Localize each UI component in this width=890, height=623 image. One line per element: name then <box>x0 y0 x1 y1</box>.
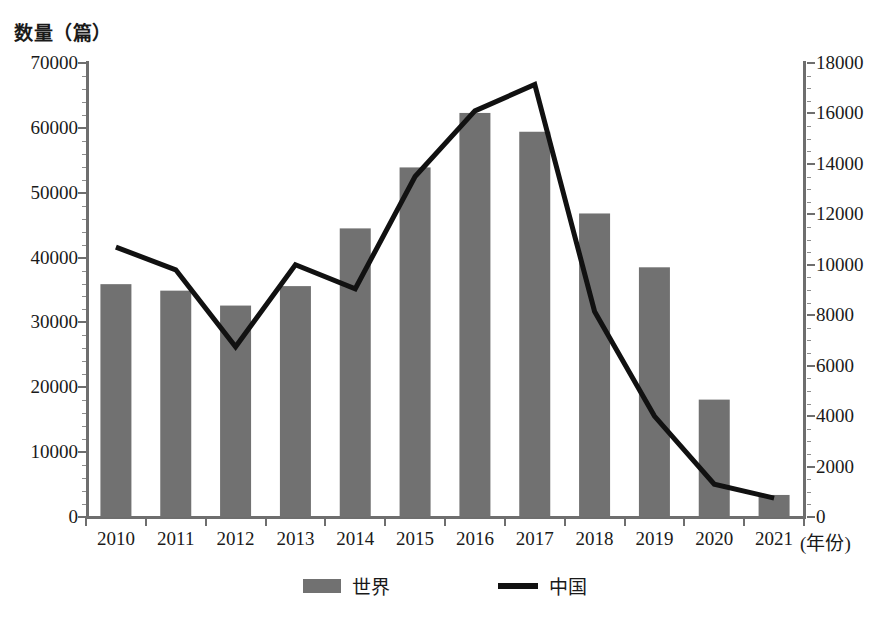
y-tick-label-left: 0 <box>0 506 78 528</box>
x-tick-label: 2015 <box>396 528 434 550</box>
y-minor-tick-right <box>807 441 811 442</box>
y-tick-label-right: 6000 <box>816 355 890 377</box>
x-tick <box>683 518 685 526</box>
y-tick-label-right: 18000 <box>816 52 890 74</box>
y-tick-right <box>807 466 815 468</box>
y-tick-right <box>807 213 815 215</box>
y-minor-tick-right <box>807 139 811 140</box>
bar-world-2012 <box>220 306 251 517</box>
chart-legend: 世界 中国 <box>0 572 890 599</box>
y-tick-label-left: 70000 <box>0 52 78 74</box>
y-minor-tick-right <box>807 151 811 152</box>
x-tick-label: 2011 <box>157 528 194 550</box>
y-tick-label-left: 50000 <box>0 182 78 204</box>
y-minor-tick-right <box>807 252 811 253</box>
y-tick-label-left: 40000 <box>0 247 78 269</box>
bar-world-2015 <box>400 167 431 517</box>
x-axis-unit-label: (年份) <box>800 528 851 555</box>
bar-world-2018 <box>579 213 610 517</box>
y-minor-tick-right <box>807 454 811 455</box>
y-tick-left <box>78 192 86 194</box>
x-tick-label: 2016 <box>456 528 494 550</box>
y-minor-tick-right <box>807 328 811 329</box>
y-tick-label-left: 20000 <box>0 376 78 398</box>
y-tick-right <box>807 163 815 165</box>
y-tick-label-right: 0 <box>816 506 890 528</box>
y-minor-tick-right <box>807 404 811 405</box>
x-tick <box>743 518 745 526</box>
y-tick-right <box>807 62 815 64</box>
y-tick-label-right: 4000 <box>816 405 890 427</box>
x-tick-label: 2018 <box>576 528 614 550</box>
y-tick-right <box>807 415 815 417</box>
y-tick-left <box>78 321 86 323</box>
x-tick-label: 2013 <box>276 528 314 550</box>
x-tick-label: 2021 <box>755 528 793 550</box>
y-tick-label-left: 60000 <box>0 117 78 139</box>
x-tick <box>444 518 446 526</box>
y-tick-left <box>78 386 86 388</box>
y-minor-tick-right <box>807 76 811 77</box>
y-minor-tick-right <box>807 177 811 178</box>
x-tick <box>564 518 566 526</box>
chart-container: 数量（篇） 0100002000030000400005000060000700… <box>0 0 890 623</box>
y-minor-tick-right <box>807 479 811 480</box>
plot-svg <box>86 63 804 517</box>
x-tick <box>504 518 506 526</box>
y-minor-tick-right <box>807 378 811 379</box>
legend-item-china[interactable]: 中国 <box>498 572 587 599</box>
legend-item-world[interactable]: 世界 <box>303 572 390 599</box>
y-minor-tick-right <box>807 492 811 493</box>
y-tick-label-left: 30000 <box>0 311 78 333</box>
bar-world-2013 <box>280 286 311 517</box>
x-tick-label: 2012 <box>217 528 255 550</box>
y-tick-left <box>78 127 86 129</box>
y-tick-right <box>807 112 815 114</box>
legend-line-swatch-icon <box>498 583 538 589</box>
y-axis-title-left: 数量（篇） <box>14 18 112 45</box>
y-tick-right <box>807 314 815 316</box>
y-tick-label-right: 10000 <box>816 254 890 276</box>
y-minor-tick-right <box>807 353 811 354</box>
x-tick <box>324 518 326 526</box>
x-tick-label: 2014 <box>336 528 374 550</box>
x-tick <box>85 518 87 526</box>
y-minor-tick-right <box>807 202 811 203</box>
y-minor-tick-right <box>807 88 811 89</box>
y-minor-tick-right <box>807 303 811 304</box>
y-minor-tick-right <box>807 227 811 228</box>
y-tick-right <box>807 516 815 518</box>
plot-area <box>86 63 804 517</box>
y-tick-label-right: 16000 <box>816 102 890 124</box>
y-tick-label-left: 10000 <box>0 441 78 463</box>
y-tick-label-right: 12000 <box>816 203 890 225</box>
bar-world-2017 <box>519 132 550 517</box>
bar-world-2020 <box>699 400 730 517</box>
y-minor-tick-right <box>807 240 811 241</box>
legend-label-world: 世界 <box>352 572 390 599</box>
x-tick <box>205 518 207 526</box>
x-tick <box>803 518 805 526</box>
x-tick <box>145 518 147 526</box>
x-tick-label: 2020 <box>695 528 733 550</box>
y-minor-tick-right <box>807 391 811 392</box>
y-tick-right <box>807 365 815 367</box>
x-tick <box>384 518 386 526</box>
y-minor-tick-right <box>807 189 811 190</box>
x-tick-label: 2010 <box>97 528 135 550</box>
x-tick <box>624 518 626 526</box>
y-minor-tick-right <box>807 429 811 430</box>
y-minor-tick-right <box>807 126 811 127</box>
x-tick-label: 2017 <box>516 528 554 550</box>
bar-world-2016 <box>459 113 490 517</box>
bar-world-2010 <box>100 284 131 517</box>
y-tick-left <box>78 257 86 259</box>
bar-world-2011 <box>160 291 191 517</box>
y-minor-tick-right <box>807 277 811 278</box>
x-tick-label: 2019 <box>635 528 673 550</box>
y-minor-tick-right <box>807 340 811 341</box>
y-minor-tick-right <box>807 504 811 505</box>
y-tick-label-right: 14000 <box>816 153 890 175</box>
legend-label-china: 中国 <box>549 572 587 599</box>
y-tick-right <box>807 264 815 266</box>
